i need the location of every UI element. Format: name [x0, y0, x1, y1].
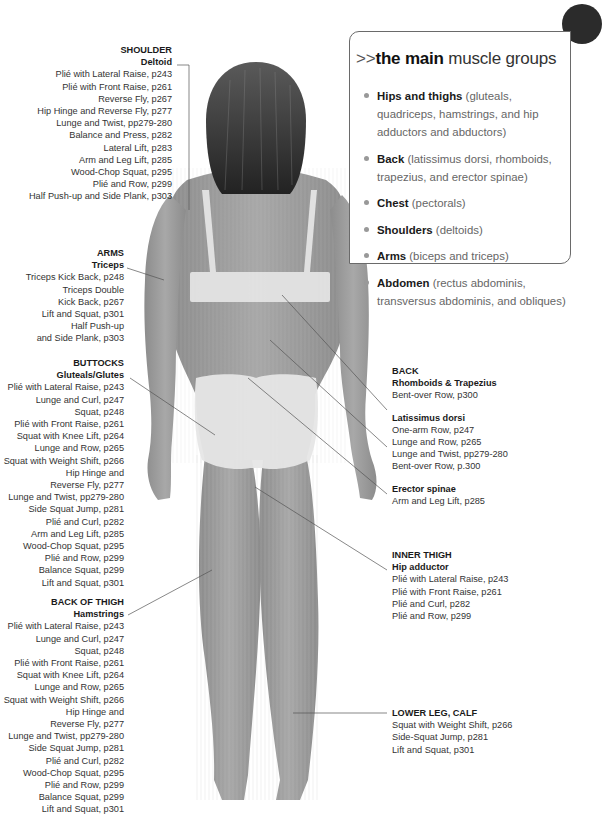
torso: [167, 168, 348, 460]
bullet-icon: [364, 280, 369, 285]
label-lower-leg: LOWER LEG, CALF Squat with Weight Shift,…: [392, 707, 512, 756]
list-item: Chest (pectorals): [364, 194, 569, 212]
exercise-item: Squat with Knee Lift, p264: [4, 430, 124, 442]
bullet-icon: [364, 156, 369, 161]
box-heading: >>the main muscle groups: [356, 49, 556, 69]
exercise-item: Lunge and Twist, pp279-280: [4, 491, 124, 503]
bullet-icon: [364, 227, 369, 232]
exercise-item: Wood-Chop Squat, p295: [4, 540, 124, 552]
exercise-item: Hip Hinge and: [4, 706, 124, 718]
exercise-item: Plié and Row, p299: [392, 610, 508, 622]
exercise-item: Plié with Lateral Raise, p243: [4, 381, 124, 393]
label-subtitle: Triceps: [26, 259, 124, 271]
exercise-item: Reverse Fly, p277: [4, 479, 124, 491]
exercise-item: Plié and Row, p299: [4, 552, 124, 564]
label-buttocks: BUTTOCKS Gluteals/Glutes Plié with Later…: [4, 357, 124, 589]
exercise-item: Plié with Front Raise, p261: [392, 586, 508, 598]
exercise-item: Squat, p248: [4, 645, 124, 657]
label-title: INNER THIGH: [392, 549, 508, 561]
exercise-item: Reverse Fly, p277: [4, 718, 124, 730]
label-title: BACK: [392, 365, 508, 377]
exercise-item: Lunge and Twist, pp279-280: [392, 448, 508, 460]
list-item: Shoulders (deltoids): [364, 221, 569, 239]
exercise-item: Bent-over Row, p300: [392, 389, 508, 401]
exercise-item: Hip Hinge and: [4, 467, 124, 479]
exercise-item: Lateral Lift, p283: [29, 142, 172, 154]
exercise-item: Lunge and Curl, p247: [4, 394, 124, 406]
exercise-item: Plié with Lateral Raise, p243: [29, 68, 172, 80]
exercise-item: Plié with Lateral Raise, p243: [392, 573, 508, 585]
underwear: [195, 374, 318, 469]
exercise-item: Plié and Row, p299: [4, 779, 124, 791]
exercise-item: Wood-Chop Squat, p295: [4, 767, 124, 779]
exercise-item: Side Squat Jump, p281: [4, 503, 124, 515]
label-title: BUTTOCKS: [4, 357, 124, 369]
bullet-icon: [364, 253, 369, 258]
exercise-item: and Side Plank, p303: [26, 332, 124, 344]
exercise-item: Squat, p248: [4, 406, 124, 418]
label-title: ARMS: [26, 247, 124, 259]
hair: [206, 62, 306, 194]
exercise-item: Wood-Chop Squat, p295: [29, 166, 172, 178]
exercise-item: Squat with Weight Shift, p266: [4, 694, 124, 706]
list-item: Abdomen (rectus abdominis, transversus a…: [364, 274, 569, 310]
muscle-group-list: Hips and thighs (gluteals, quadriceps, h…: [364, 87, 569, 318]
label-subtitle: Rhomboids & Trapezius: [392, 377, 508, 389]
exercise-item: Plié and Row, p299: [29, 178, 172, 190]
label-title: BACK OF THIGH: [4, 596, 124, 608]
exercise-item: Squat with Weight Shift, p266: [4, 455, 124, 467]
label-subtitle: Latissimus dorsi: [392, 412, 508, 424]
exercise-item: Plié and Curl, p282: [392, 598, 508, 610]
label-inner-thigh: INNER THIGH Hip adductor Plié with Later…: [392, 549, 508, 622]
label-title: SHOULDER: [29, 44, 172, 56]
exercise-item: Lift and Squat, p301: [26, 308, 124, 320]
exercise-item: Half Push-up: [26, 320, 124, 332]
label-subtitle: Hamstrings: [4, 608, 124, 620]
muscle-groups-box: >>the main muscle groups Hips and thighs…: [349, 31, 571, 264]
exercise-item: Lunge and Twist, pp279-280: [4, 730, 124, 742]
exercise-item: Plié with Front Raise, p261: [4, 657, 124, 669]
exercise-item: Balance Squat, p299: [4, 791, 124, 803]
exercise-item: Lift and Squat, p301: [4, 577, 124, 589]
label-title: LOWER LEG, CALF: [392, 707, 512, 719]
label-back-of-thigh: BACK OF THIGH Hamstrings Plié with Later…: [4, 596, 124, 816]
exercise-item: Half Push-up and Side Plank, p303: [29, 190, 172, 202]
label-subtitle: Hip adductor: [392, 561, 508, 573]
exercise-item: Squat with Weight Shift, p266: [392, 719, 512, 731]
exercise-item: Plié with Front Raise, p261: [4, 418, 124, 430]
exercise-item: Balance and Press, p282: [29, 129, 172, 141]
label-shoulder: SHOULDER Deltoid Plié with Lateral Raise…: [29, 44, 172, 203]
double-arrow-icon: >>: [356, 49, 375, 68]
legs: [199, 455, 318, 800]
exercise-item: Reverse Fly, p267: [29, 93, 172, 105]
bullet-icon: [364, 93, 369, 98]
bra: [190, 190, 330, 302]
exercise-item: Arm and Leg Lift, p285: [4, 528, 124, 540]
label-arms: ARMS Triceps Triceps Kick Back, p248 Tri…: [26, 247, 124, 345]
exercise-item: Lift and Squat, p301: [392, 744, 512, 756]
exercise-item: Side-Squat Jump, p281: [392, 731, 512, 743]
exercise-item: Lunge and Curl, p247: [4, 633, 124, 645]
exercise-item: One-arm Row, p247: [392, 424, 508, 436]
exercise-item: Kick Back, p267: [26, 296, 124, 308]
exercise-item: Lunge and Twist, pp279-280: [29, 117, 172, 129]
exercise-item: Plié with Front Raise, p261: [29, 81, 172, 93]
exercise-item: Plié and Curl, p282: [4, 516, 124, 528]
exercise-item: Side Squat Jump, p281: [4, 742, 124, 754]
label-subtitle: Deltoid: [29, 56, 172, 68]
exercise-item: Squat with Knee Lift, p264: [4, 669, 124, 681]
exercise-item: Lunge and Row, p265: [392, 436, 508, 448]
bullet-icon: [364, 200, 369, 205]
label-subtitle: Gluteals/Glutes: [4, 369, 124, 381]
exercise-item: Hip Hinge and Reverse Fly, p277: [29, 105, 172, 117]
list-item: Hips and thighs (gluteals, quadriceps, h…: [364, 87, 569, 141]
exercise-item: Arm and Leg Lift, p285: [29, 154, 172, 166]
exercise-item: Balance Squat, p299: [4, 564, 124, 576]
exercise-item: Arm and Leg Lift, p285: [392, 495, 508, 507]
arms: [144, 195, 376, 500]
label-back: BACK Rhomboids & Trapezius Bent-over Row…: [392, 365, 508, 507]
exercise-item: Lunge and Row, p265: [4, 681, 124, 693]
label-subtitle: Erector spinae: [392, 483, 508, 495]
exercise-item: Lift and Squat, p301: [4, 803, 124, 815]
list-item: Back (latissimus dorsi, rhomboids, trape…: [364, 150, 569, 186]
